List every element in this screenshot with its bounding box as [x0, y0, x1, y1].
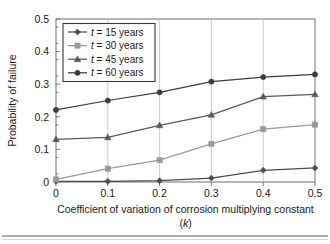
y-axis-title: Probability of failure: [6, 54, 18, 146]
legend-entry-label: t = 45 years: [91, 54, 144, 65]
y-axis-tick-label: 0.2: [34, 111, 49, 123]
series-data-point: [209, 79, 214, 84]
series-data-point: [105, 166, 110, 171]
series-data-point: [53, 177, 58, 182]
series-data-point: [53, 107, 58, 112]
y-axis-tick-label: 0.3: [34, 78, 49, 90]
y-axis-tick-label: 0.1: [34, 143, 49, 155]
x-axis-tick-label: 0.5: [308, 187, 323, 199]
legend-marker-sample: [75, 43, 80, 48]
legend-marker-sample: [75, 70, 80, 75]
legend-entry-label: t = 15 years: [91, 27, 144, 38]
series-data-point: [157, 90, 162, 95]
legend-entry-label: t = 60 years: [91, 67, 144, 78]
x-axis-tick-label: 0.1: [100, 187, 115, 199]
legend-entry-label: t = 30 years: [91, 40, 144, 51]
series-data-point: [105, 98, 110, 103]
series-data-point: [312, 72, 317, 77]
x-axis-tick-label: 0.4: [256, 187, 271, 199]
series-data-point: [261, 74, 266, 79]
y-axis-tick-label: 0.5: [34, 13, 49, 25]
y-axis-tick-label: 0.4: [34, 45, 49, 57]
series-data-point: [312, 122, 317, 127]
x-axis-tick-label: 0: [53, 187, 59, 199]
x-axis-title-variable: (k): [179, 217, 191, 229]
y-axis-tick-label: 0: [43, 176, 49, 188]
series-data-point: [209, 141, 214, 146]
series-data-point: [261, 127, 266, 132]
figure-container: 00.10.20.30.40.500.10.20.30.40.5Probabil…: [0, 0, 330, 244]
probability-of-failure-line-chart: 00.10.20.30.40.500.10.20.30.40.5Probabil…: [0, 0, 330, 244]
x-axis-tick-label: 0.3: [204, 187, 219, 199]
series-data-point: [157, 158, 162, 163]
x-axis-title: Coefficient of variation of corrosion mu…: [57, 203, 314, 215]
x-axis-tick-label: 0.2: [152, 187, 167, 199]
